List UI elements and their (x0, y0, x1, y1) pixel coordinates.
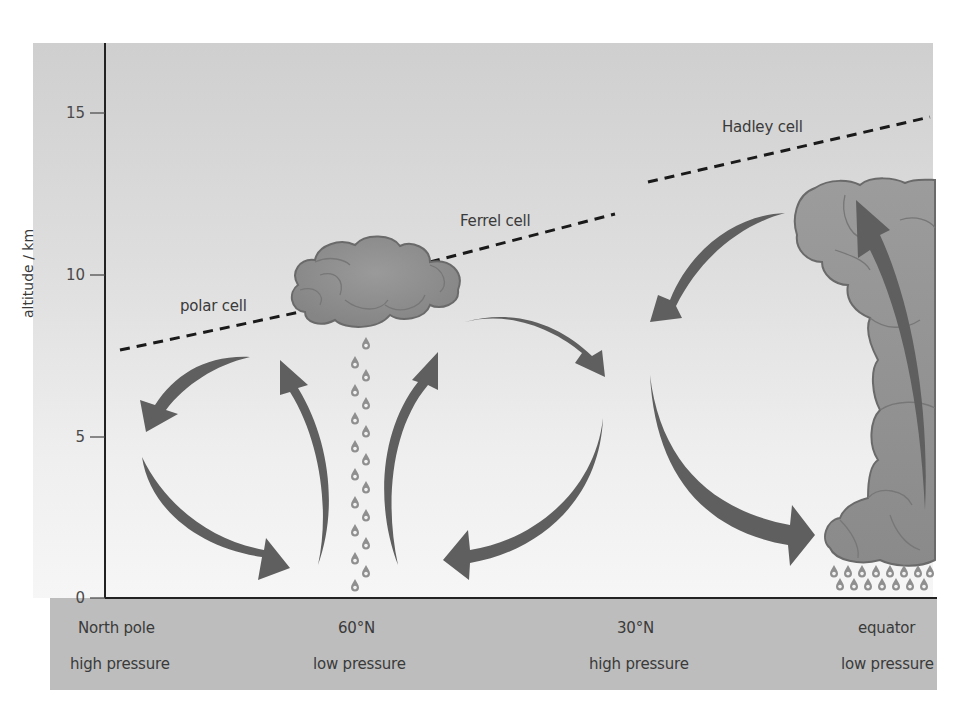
cloud-60n (292, 236, 460, 326)
y-axis (90, 43, 105, 598)
pressure-60n: low pressure (313, 655, 406, 673)
y-tick-10: 10 (55, 266, 85, 284)
y-axis-label: altitude / km (20, 229, 36, 318)
arrow-hadley-top (650, 213, 785, 322)
y-tick-5: 5 (55, 428, 85, 446)
atmospheric-circulation-diagram: 15 10 5 0 altitude / km polar cell Ferre… (0, 0, 975, 720)
pressure-equator: low pressure (841, 655, 934, 673)
arrow-ferrel-top (465, 317, 605, 377)
pressure-north-pole: high pressure (70, 655, 170, 673)
arrow-ferrel-rise (384, 352, 438, 565)
latitude-equator: equator (858, 619, 915, 637)
y-tick-0: 0 (55, 589, 85, 607)
pressure-30n: high pressure (589, 655, 689, 673)
rain-60n (351, 337, 370, 592)
label-hadley-cell: Hadley cell (722, 118, 803, 136)
diagram-graphics (0, 0, 975, 720)
label-polar-cell: polar cell (180, 297, 247, 315)
rain-equator (830, 565, 934, 591)
latitude-30n: 30°N (617, 619, 654, 637)
arrow-ferrel-surface (443, 418, 603, 580)
label-ferrel-cell: Ferrel cell (460, 212, 531, 230)
arrow-polar-surface (142, 457, 290, 580)
arrow-hadley-surface (650, 375, 815, 566)
arrow-polar-rise (280, 360, 329, 565)
arrow-polar-descend (140, 357, 250, 432)
latitude-north-pole: North pole (78, 619, 155, 637)
y-tick-15: 15 (55, 104, 85, 122)
latitude-60n: 60°N (338, 619, 375, 637)
